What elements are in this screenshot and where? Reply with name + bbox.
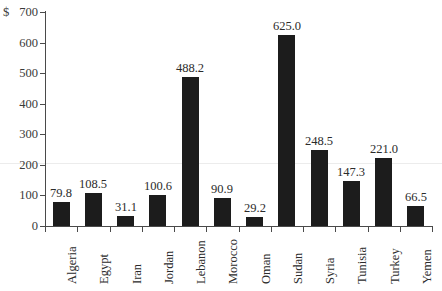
x-axis-tick: [206, 227, 207, 232]
y-axis-tick: [40, 165, 45, 166]
bar-value-label: 248.5: [296, 135, 342, 148]
x-axis-category-label: Syria: [324, 258, 337, 284]
y-axis-tick-label-text: 200: [2, 159, 38, 171]
bar[interactable]: [246, 217, 263, 226]
bar-value-label: 29.2: [232, 202, 278, 215]
y-axis-tick-label-text: 400: [2, 98, 38, 110]
y-axis-tick: [40, 73, 45, 74]
x-axis-category-label: Iran: [131, 264, 144, 284]
x-axis-category-label: Algeria: [66, 247, 79, 284]
bar[interactable]: [311, 150, 328, 226]
x-axis-category-label: Morocco: [227, 239, 240, 284]
bar[interactable]: [149, 195, 166, 226]
y-axis-tick-label-text: 500: [2, 67, 38, 79]
x-axis-tick: [45, 227, 46, 232]
y-axis-tick: [40, 12, 45, 13]
x-axis-category-label: Lebanon: [195, 240, 208, 284]
y-axis-tick-label: 0: [0, 220, 38, 232]
x-axis-category-label: Jordan: [163, 251, 176, 284]
y-axis-tick-label: 400: [0, 98, 38, 110]
bar[interactable]: [407, 206, 424, 226]
bar-value-label: 625.0: [264, 20, 310, 33]
x-axis-tick: [303, 227, 304, 232]
bar[interactable]: [182, 77, 199, 226]
y-axis-tick-label: 100: [0, 189, 38, 201]
bar-value-label: 66.5: [393, 191, 439, 204]
bar-value-label: 31.1: [103, 201, 149, 214]
bar-value-label: 488.2: [167, 62, 213, 75]
x-axis-category-label: Egypt: [98, 254, 111, 284]
bar-chart: $ 010020030040050060070079.8Algeria108.5…: [0, 0, 442, 291]
x-axis-category-label: Turkey: [389, 248, 402, 284]
x-axis-tick: [432, 227, 433, 232]
x-axis-tick: [77, 227, 78, 232]
y-axis-tick-label: 500: [0, 67, 38, 79]
x-axis-tick: [239, 227, 240, 232]
y-axis-tick: [40, 104, 45, 105]
x-axis-category-label: Tunisia: [356, 247, 369, 284]
x-axis-tick: [271, 227, 272, 232]
bar-value-label: 221.0: [361, 143, 407, 156]
bar[interactable]: [343, 181, 360, 226]
y-axis-tick: [40, 134, 45, 135]
y-axis-tick-label: 600: [0, 37, 38, 49]
x-axis-tick: [335, 227, 336, 232]
bar-value-label: 147.3: [328, 166, 374, 179]
bar-value-label: 108.5: [70, 178, 116, 191]
y-axis-tick-label: 300: [0, 128, 38, 140]
bar-value-label: 100.6: [135, 180, 181, 193]
x-axis-tick: [174, 227, 175, 232]
y-axis-tick-label-text: 300: [2, 128, 38, 140]
bar[interactable]: [375, 158, 392, 226]
y-axis-tick-label-text: 700: [2, 6, 38, 18]
x-axis-tick: [142, 227, 143, 232]
bar[interactable]: [85, 193, 102, 226]
y-axis-tick: [40, 43, 45, 44]
y-axis-tick-label: 700: [0, 6, 38, 18]
y-axis-tick-label-text: 100: [2, 189, 38, 201]
x-axis-category-label: Oman: [260, 253, 273, 284]
y-axis-tick-label-text: 600: [2, 37, 38, 49]
x-axis-tick: [368, 227, 369, 232]
y-axis-tick-label: 200: [0, 159, 38, 171]
x-axis-tick: [110, 227, 111, 232]
bar[interactable]: [53, 202, 70, 226]
x-axis-category-label: Sudan: [292, 253, 305, 284]
bar[interactable]: [214, 198, 231, 226]
x-axis-category-label: Yemen: [421, 249, 434, 284]
x-axis-tick: [400, 227, 401, 232]
bar[interactable]: [117, 216, 134, 226]
y-axis-tick-label-text: 0: [2, 220, 38, 232]
bar[interactable]: [278, 35, 295, 226]
bar-value-label: 90.9: [199, 183, 245, 196]
